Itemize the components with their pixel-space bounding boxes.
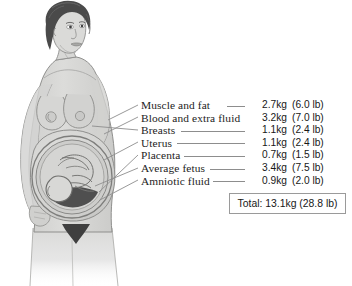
leader-dash	[210, 169, 245, 170]
row-lb: (2.0 lb)	[292, 175, 344, 188]
illustration-page: Muscle and fat 2.7kg (6.0 lb) Blood and …	[0, 0, 352, 286]
row-kg: 1.1kg	[247, 137, 287, 150]
total-box: Total: 13.1kg (28.8 lb)	[229, 193, 346, 214]
weight-breakdown-table: Muscle and fat 2.7kg (6.0 lb) Blood and …	[141, 99, 349, 187]
row-kg: 0.9kg	[247, 175, 287, 188]
row-label: Amniotic fluid	[141, 175, 210, 188]
pregnant-woman-figure	[0, 0, 152, 286]
leader-dash	[184, 156, 245, 157]
row-label: Average fetus	[141, 162, 205, 175]
row-label: Breasts	[141, 124, 175, 137]
row-label: Placenta	[141, 149, 180, 162]
row-kg: 1.1kg	[247, 124, 287, 137]
table-row: Placenta 0.7kg (1.5 lb)	[141, 149, 349, 162]
table-row: Breasts 1.1kg (2.4 lb)	[141, 124, 349, 137]
row-label: Uterus	[141, 137, 172, 150]
table-row: Average fetus 3.4kg (7.5 lb)	[141, 162, 349, 175]
leader-dash	[177, 143, 245, 144]
head	[46, 1, 91, 53]
row-lb: (7.5 lb)	[292, 162, 344, 175]
row-kg: 3.4kg	[247, 162, 287, 175]
row-kg: 2.7kg	[247, 99, 287, 112]
table-row: Blood and extra fluid 3.2kg (7.0 lb)	[141, 112, 349, 125]
table-row: Uterus 1.1kg (2.4 lb)	[141, 137, 349, 150]
row-label: Muscle and fat	[141, 99, 210, 112]
row-kg: 3.2kg	[247, 112, 287, 125]
total-label: Total: 13.1kg (28.8 lb)	[230, 194, 345, 213]
row-lb: (2.4 lb)	[292, 124, 344, 137]
leader-dash	[213, 181, 245, 182]
row-kg: 0.7kg	[247, 149, 287, 162]
table-row: Muscle and fat 2.7kg (6.0 lb)	[141, 99, 349, 112]
row-lb: (1.5 lb)	[292, 149, 344, 162]
leader-dash	[227, 106, 245, 107]
row-label: Blood and extra fluid	[141, 112, 240, 125]
row-lb: (2.4 lb)	[292, 137, 344, 150]
leader-dash	[181, 131, 245, 132]
table-row: Amniotic fluid 0.9kg (2.0 lb)	[141, 175, 349, 188]
row-lb: (6.0 lb)	[292, 99, 344, 112]
row-lb: (7.0 lb)	[292, 112, 344, 125]
